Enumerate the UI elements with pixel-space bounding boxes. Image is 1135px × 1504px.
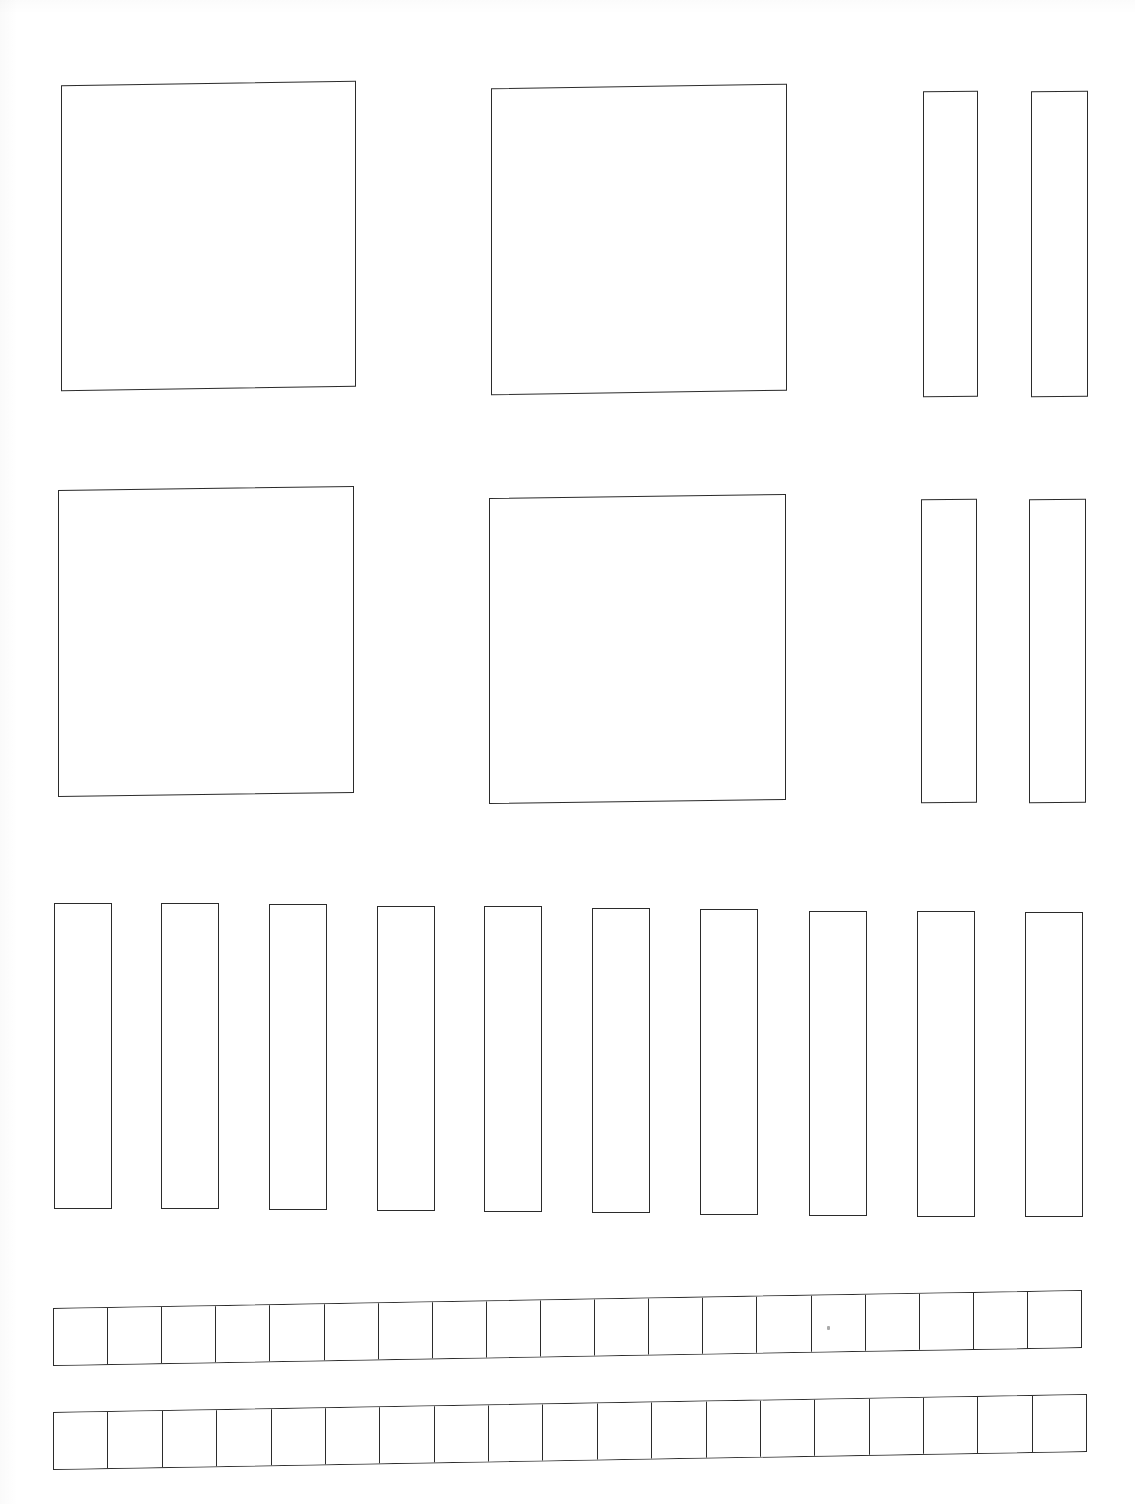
unit-cell [216,1305,270,1362]
unit-cell [703,1297,757,1354]
unit-cell [380,1406,434,1463]
unit-cell [108,1307,162,1364]
unit-cell [487,1300,541,1357]
unit-cell [1028,1291,1081,1348]
unit-cell [920,1293,974,1350]
unit-cell [379,1302,433,1359]
scan-speck [827,1326,830,1330]
unit-cell [541,1300,595,1357]
unit-cell [761,1400,815,1457]
unit-cell [652,1402,706,1459]
unit-cell [866,1294,920,1351]
unit-cell [812,1295,866,1352]
unit-cell [978,1396,1032,1453]
unit-cell [217,1409,271,1466]
unit-cell [272,1408,326,1465]
unit-cell [757,1296,811,1353]
unit-cell [974,1292,1028,1349]
unit-cell [162,1306,216,1363]
unit-cell [543,1404,597,1461]
unit-cell [815,1399,869,1456]
unit-cell [598,1403,652,1460]
unit-cell [270,1304,324,1361]
unit-cell [326,1407,380,1464]
figure-row-4 [0,0,1135,1504]
unit-cell [489,1404,543,1461]
unit-cell [924,1397,978,1454]
unit-cell [433,1301,487,1358]
unit-cell [595,1299,649,1356]
unit-cell [870,1398,924,1455]
unit-cell [108,1411,162,1468]
unit-cell [707,1401,761,1458]
row-4-unit-strip-2 [53,1394,1087,1470]
unit-cell [325,1303,379,1360]
unit-cell [54,1412,108,1469]
unit-cell [54,1308,108,1365]
unit-cell [1033,1395,1086,1452]
unit-cell [163,1410,217,1467]
unit-cell [435,1405,489,1462]
row-4-unit-strip-1 [53,1290,1082,1366]
worksheet-page [0,0,1135,1504]
unit-cell [649,1298,703,1355]
